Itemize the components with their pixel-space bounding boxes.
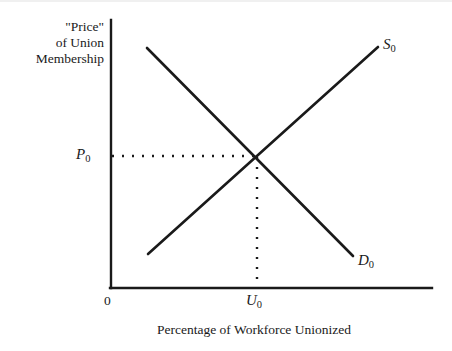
supply-curve-label: S0 (383, 36, 396, 55)
supply-curve-letter: S (383, 36, 391, 52)
equilibrium-price-label: P0 (76, 146, 90, 165)
supply-curve-subscript: 0 (391, 43, 396, 54)
y-axis-title-line-2: of Union (20, 35, 104, 51)
supply-curve (148, 47, 378, 254)
demand-curve-label: D0 (358, 252, 374, 271)
demand-curve-subscript: 0 (369, 259, 374, 270)
y-axis-title: "Price" of Union Membership (20, 19, 104, 67)
demand-curve (147, 48, 353, 256)
equilibrium-price-letter: P (76, 146, 85, 162)
x-axis-title: Percentage of Workforce Unionized (0, 322, 452, 338)
equilibrium-quantity-label: U0 (246, 292, 262, 311)
origin-label: 0 (104, 293, 111, 309)
equilibrium-quantity-letter: U (246, 292, 257, 308)
equilibrium-quantity-subscript: 0 (257, 299, 262, 310)
equilibrium-price-subscript: 0 (85, 153, 90, 164)
demand-curve-letter: D (358, 252, 369, 268)
supply-demand-figure: "Price" of Union Membership P0 U0 S0 D0 … (0, 0, 452, 351)
y-axis-title-line-1: "Price" (20, 19, 104, 35)
y-axis-title-line-3: Membership (20, 51, 104, 67)
